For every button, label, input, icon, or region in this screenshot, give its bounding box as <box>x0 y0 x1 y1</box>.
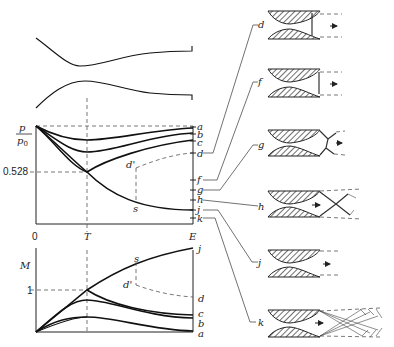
svg-text:k: k <box>197 213 203 224</box>
annotation-s: s <box>133 203 138 214</box>
svg-text:j: j <box>256 257 261 268</box>
mach-chart: 0 T E M 1 s d' j d c b a <box>19 231 204 339</box>
mach-one-label: 1 <box>27 285 33 296</box>
nozzle-g: g <box>258 130 345 156</box>
annotation-d-prime: d' <box>126 159 135 170</box>
nozzle-f: f <box>257 69 342 97</box>
ylabel-p: p <box>19 122 26 133</box>
mach-annotation-s: s <box>134 253 139 264</box>
leader-lines <box>203 25 258 322</box>
svg-text:d: d <box>258 19 264 30</box>
pressure-chart: p p0 0.528 d' s a b c d f g h <box>3 98 203 232</box>
x-label-T: T <box>84 231 92 242</box>
mach-annotation-d-prime: d' <box>123 279 132 290</box>
svg-text:d: d <box>197 148 203 159</box>
x-label-E: E <box>188 231 197 242</box>
ylabel-M: M <box>19 260 31 271</box>
svg-text:j: j <box>196 243 201 254</box>
ylabel-p0: p0 <box>17 135 28 148</box>
x-label-0: 0 <box>32 231 38 242</box>
svg-text:f: f <box>257 76 264 87</box>
nozzle-h: h <box>258 189 362 219</box>
nozzle-j: j <box>256 250 340 277</box>
nozzle-k: k <box>258 308 382 337</box>
svg-text:k: k <box>258 317 264 328</box>
critical-ratio-label: 0.528 <box>3 166 28 177</box>
nozzle-flow-diagram: p p0 0.528 d' s a b c d f g h <box>0 0 394 347</box>
pressure-right-labels: a b c d f g h j k <box>190 121 203 224</box>
nozzle-profile <box>36 38 192 108</box>
svg-text:g: g <box>258 139 264 150</box>
svg-text:h: h <box>258 201 264 212</box>
svg-text:c: c <box>197 137 203 148</box>
svg-text:d: d <box>198 293 204 304</box>
nozzle-d: d <box>258 11 342 39</box>
svg-text:a: a <box>198 328 204 339</box>
